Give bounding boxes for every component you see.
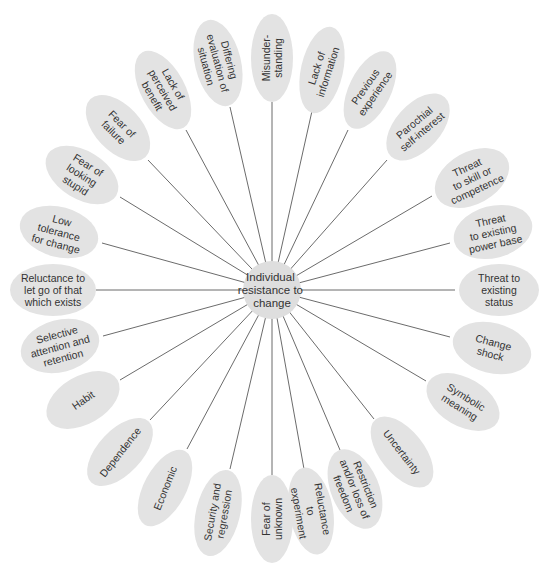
factor-node-fear-of-unknown: Fear ofunknown [251,475,293,563]
node-label: Misunder-standing [260,34,284,81]
factor-node-reluctance-to-let-go: Reluctance tolet go of thatwhich exists [10,264,96,316]
node-label: Reluctance tolet go of thatwhich exists [21,272,85,308]
node-label-line: which exists [24,296,82,308]
node-label-line: Misunder- [260,34,272,81]
node-label-line: Reluctance to [21,272,85,284]
hub-label-line: resistance to [238,284,303,296]
node-label-line: existing [481,284,517,296]
node-label-line: let go of that [24,284,82,296]
node-label-line: status [485,296,513,308]
node-label-line: Threat to [478,272,520,284]
factor-node-misunderstanding: Misunder-standing [251,14,293,102]
node-label-line: Fear of [260,502,272,535]
hub-label-line: Individual [246,271,295,283]
resistance-to-change-diagram: Misunder-standingLack ofinformationPrevi… [0,0,554,573]
node-label-line: standing [272,38,284,78]
node-label-line: unknown [272,498,284,540]
factor-node-threat-to-status: Threat toexistingstatus [459,264,539,316]
node-label: Fear ofunknown [260,498,284,540]
hub-label-line: change [253,297,291,309]
